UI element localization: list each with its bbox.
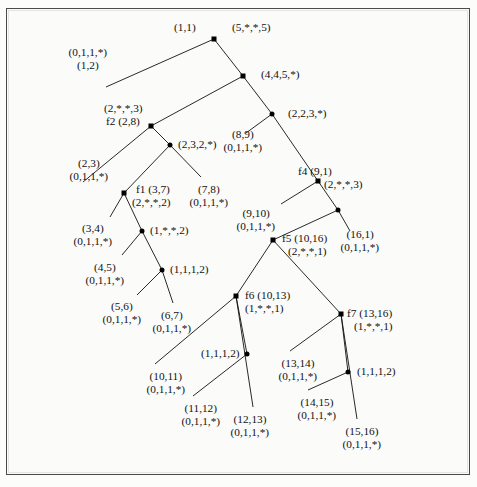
leaf-2-3-line1: (2,3) bbox=[78, 157, 100, 170]
leaf-14-15-line1: (14,15) bbox=[301, 396, 334, 409]
leaf-8-9-line2: (0,1,1,*) bbox=[224, 141, 263, 154]
leaf-2-3-line2: (0,1,1,*) bbox=[70, 170, 109, 183]
tree-node-f2[interactable] bbox=[149, 124, 154, 129]
label-f4: f4 (9,1) bbox=[298, 165, 332, 178]
label-f4-lower: (2,*,*,3) bbox=[324, 178, 363, 191]
leaf-7-8-line1: (7,8) bbox=[198, 183, 220, 196]
label-f7: f7 (13,16) bbox=[347, 307, 392, 320]
label-f1-lower: (2,*,*,2) bbox=[132, 196, 171, 209]
edge-leaf-5-6 bbox=[137, 270, 162, 295]
label-f5: f5 (10,16) bbox=[282, 232, 327, 245]
figure-canvas: (1,1)(5,*,*,5)(4,4,5,*)(2,2,3,*)(2,*,*,3… bbox=[0, 0, 477, 487]
leaf-6-7-line1: (6,7) bbox=[161, 309, 183, 322]
label-2-2-3: (2,2,3,*) bbox=[288, 107, 327, 120]
edge-leaf-4-5 bbox=[122, 231, 142, 255]
leaf-13-14-line1: (13,14) bbox=[282, 357, 315, 370]
tree-node-f6[interactable] bbox=[234, 294, 239, 299]
tree-node-f1[interactable] bbox=[122, 191, 127, 196]
leaf-6-7-line2: (0,1,1,*) bbox=[153, 322, 192, 335]
label-f5-lower: (2,*,*,1) bbox=[288, 245, 327, 258]
label-1112-left: (1,1,1,2) bbox=[170, 263, 209, 276]
label-2-3-2: (2,3,2,*) bbox=[178, 138, 217, 151]
leaf-14-15-line2: (0,1,1,*) bbox=[298, 409, 337, 422]
tree-node-n3[interactable] bbox=[270, 112, 275, 117]
leaf-8-9-line1: (8,9) bbox=[232, 128, 254, 141]
leaf-9-10-line1: (9,10) bbox=[243, 207, 270, 220]
leaf-4-5-line2: (0,1,1,*) bbox=[86, 274, 125, 287]
leaf-10-11-line2: (0,1,1,*) bbox=[147, 383, 186, 396]
leaf-15-16-line2: (0,1,1,*) bbox=[343, 438, 382, 451]
tree-node-f4[interactable] bbox=[316, 179, 321, 184]
edge-n2-f2 bbox=[151, 76, 243, 126]
leaf-11-12-line1: (11,12) bbox=[185, 402, 218, 415]
tree-node-n8[interactable] bbox=[336, 208, 341, 213]
leaf-12-13-line2: (0,1,1,*) bbox=[231, 426, 270, 439]
edge-root-n2 bbox=[214, 39, 243, 76]
label-f7-lower: (1,*,*,1) bbox=[354, 320, 393, 333]
tree-node-n1[interactable] bbox=[212, 37, 217, 42]
tree-node-n15[interactable] bbox=[346, 370, 351, 375]
leaf-3-4-line1: (3,4) bbox=[82, 222, 104, 235]
leaf-11-12-line2: (0,1,1,*) bbox=[182, 415, 221, 428]
leaf-4-5-line1: (4,5) bbox=[94, 261, 116, 274]
edge-leaf-9-10 bbox=[281, 181, 318, 204]
leaf-5-6-line1: (5,6) bbox=[111, 300, 133, 313]
leaf-12-13-line1: (12,13) bbox=[234, 413, 267, 426]
leaf-5-6-line2: (0,1,1,*) bbox=[103, 313, 142, 326]
leaf-9-10-line2: (0,1,1,*) bbox=[237, 220, 276, 233]
leaf-1-2-line2: (1,2) bbox=[77, 59, 99, 72]
edge-f2-n5 bbox=[151, 126, 170, 145]
tree-node-n5[interactable] bbox=[168, 143, 173, 148]
edge-leaf-13-14 bbox=[290, 314, 341, 351]
label-1112-right: (1,1,1,2) bbox=[357, 365, 396, 378]
label-f6: f6 (10,13) bbox=[245, 289, 290, 302]
label-f2-upper: (2,*,*,3) bbox=[104, 102, 143, 115]
label-f2: f2 (2,8) bbox=[106, 115, 140, 128]
label-f1: f1 (3,7) bbox=[136, 183, 170, 196]
tree-node-n2[interactable] bbox=[241, 74, 246, 79]
tree-node-n14[interactable] bbox=[245, 352, 250, 357]
tree-node-n9[interactable] bbox=[140, 229, 145, 234]
label-1-2-mid: (1,*,*,2) bbox=[150, 224, 189, 237]
edge-leaf-1-2 bbox=[106, 39, 214, 87]
tree-node-f5[interactable] bbox=[271, 238, 276, 243]
label-root-1-1: (1,1) bbox=[174, 21, 196, 34]
leaf-16-1-line1: (16,1) bbox=[347, 228, 374, 241]
edge-f5-f6 bbox=[236, 240, 273, 296]
label-root-5-5: (5,*,*,5) bbox=[232, 21, 271, 34]
leaf-3-4-line2: (0,1,1,*) bbox=[74, 235, 113, 248]
leaf-10-11-line1: (10,11) bbox=[150, 370, 183, 383]
edge-n2-n3 bbox=[243, 76, 272, 114]
leaf-1-2-line1: (0,1,1,*) bbox=[69, 46, 108, 59]
label-f6-lower: (1,*,*,1) bbox=[245, 302, 284, 315]
leaf-13-14-line2: (0,1,1,*) bbox=[279, 370, 318, 383]
edge-leaf-11-12 bbox=[193, 354, 247, 396]
leaf-16-1-line2: (0,1,1,*) bbox=[341, 241, 380, 254]
label-1112-mid: (1,1,1,2) bbox=[201, 347, 240, 360]
edge-n9-n11 bbox=[142, 231, 162, 270]
leaf-15-16-line1: (15,16) bbox=[346, 425, 379, 438]
edge-leaf-3-4 bbox=[110, 193, 124, 217]
tree-node-n11[interactable] bbox=[160, 268, 165, 273]
label-4-4-5: (4,4,5,*) bbox=[261, 68, 300, 81]
leaf-7-8-line2: (0,1,1,*) bbox=[190, 196, 229, 209]
tree-node-f7[interactable] bbox=[339, 312, 344, 317]
